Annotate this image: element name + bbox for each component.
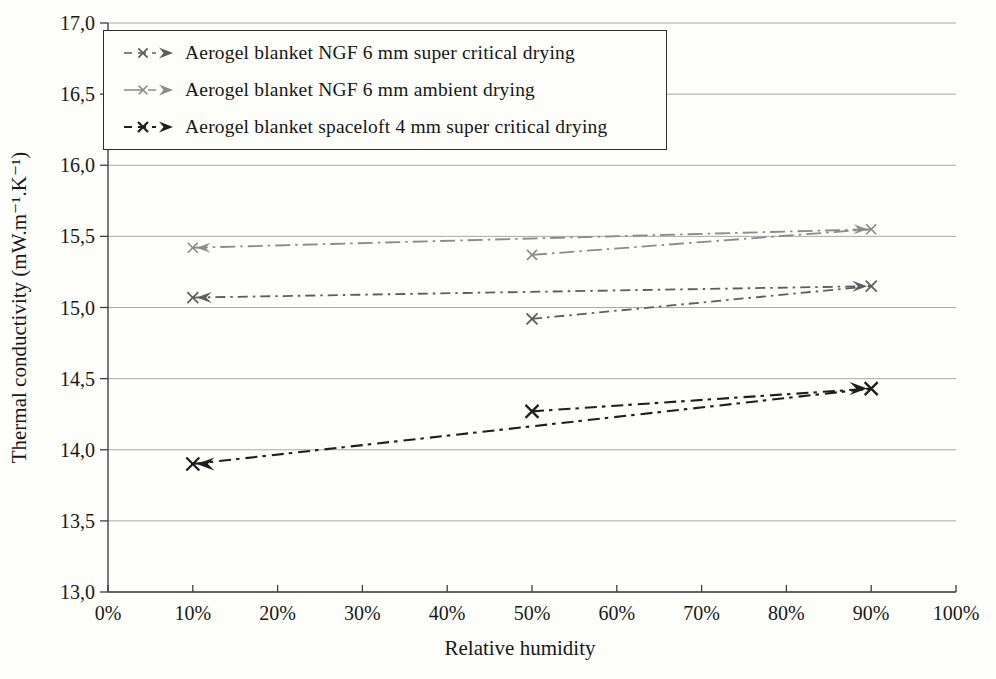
legend-item-label: Aerogel blanket spaceloft 4 mm super cri… bbox=[185, 116, 607, 138]
x-tick-label: 60% bbox=[598, 602, 635, 624]
legend-line-marker-icon bbox=[122, 44, 176, 62]
y-tick-label: 15,5 bbox=[60, 225, 95, 247]
series-line bbox=[193, 389, 871, 464]
x-tick-label: 90% bbox=[853, 602, 890, 624]
y-tick-label: 16,0 bbox=[60, 154, 95, 176]
x-tick-label: 80% bbox=[768, 602, 805, 624]
x-tick-label: 40% bbox=[429, 602, 466, 624]
y-tick-label: 13,0 bbox=[60, 581, 95, 603]
x-tick-label: 50% bbox=[514, 602, 551, 624]
x-tick-label: 100% bbox=[933, 602, 980, 624]
direction-arrow-left-icon bbox=[197, 243, 211, 253]
y-tick-label: 14,5 bbox=[60, 368, 95, 390]
legend-line-marker-icon bbox=[122, 81, 176, 99]
legend-item-spaceloft-supercritical: Aerogel blanket spaceloft 4 mm super cri… bbox=[122, 116, 658, 138]
x-axis-title: Relative humidity bbox=[444, 636, 596, 660]
y-tick-label: 15,0 bbox=[60, 297, 95, 319]
legend-item-ngf-supercritical: Aerogel blanket NGF 6 mm super critical … bbox=[122, 42, 658, 64]
direction-arrow-left-icon bbox=[197, 457, 215, 470]
series-line bbox=[193, 286, 871, 297]
y-tick-label: 14,0 bbox=[60, 439, 95, 461]
direction-arrow-right-icon bbox=[159, 48, 173, 59]
x-tick-label: 70% bbox=[683, 602, 720, 624]
x-tick-label: 0% bbox=[95, 602, 122, 624]
chart-figure: 17,016,516,015,515,014,514,013,513,00%10… bbox=[0, 0, 996, 679]
y-axis-title: Thermal conductivity (mW.m⁻¹.K⁻¹) bbox=[7, 152, 31, 464]
x-tick-label: 20% bbox=[259, 602, 296, 624]
direction-arrow-right-icon bbox=[159, 121, 173, 132]
y-tick-label: 13,5 bbox=[60, 510, 95, 532]
legend-line-marker-icon bbox=[122, 118, 176, 136]
x-tick-label: 10% bbox=[174, 602, 211, 624]
y-tick-label: 16,5 bbox=[60, 83, 95, 105]
legend-item-ngf-ambient: Aerogel blanket NGF 6 mm ambient drying bbox=[122, 79, 658, 101]
legend: Aerogel blanket NGF 6 mm super critical … bbox=[103, 30, 667, 150]
direction-arrow-right-icon bbox=[850, 382, 868, 395]
legend-item-label: Aerogel blanket NGF 6 mm super critical … bbox=[185, 42, 575, 64]
direction-arrow-right-icon bbox=[159, 84, 173, 95]
x-tick-label: 30% bbox=[344, 602, 381, 624]
legend-item-label: Aerogel blanket NGF 6 mm ambient drying bbox=[185, 79, 535, 101]
series-line bbox=[193, 229, 871, 247]
y-tick-label: 17,0 bbox=[60, 12, 95, 34]
